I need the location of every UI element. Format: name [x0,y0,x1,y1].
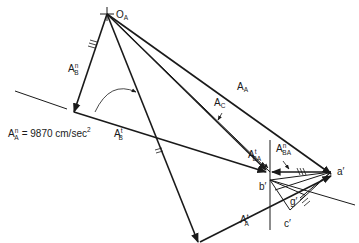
pointer-a-c [218,113,222,120]
label-origin: OA [116,9,129,21]
label-a-c: AC [214,97,226,109]
label-a-a-t: AtA [240,213,249,227]
acceleration-diagram: OA AA AC AnB AtB AtA AtBA AnBA a′ b′ c′ … [0,0,359,243]
label-a-b-t: AtB [114,127,123,141]
vector-a-b-n [74,14,107,112]
label-a-b-n: AnB [68,62,79,76]
polygon-fan [270,172,355,210]
label-b-prime: b′ [259,181,267,192]
label-g-prime: g′ [290,196,298,207]
label-a-a: AA [237,81,249,93]
curved-arrow [95,89,136,112]
hatch-marks [88,40,310,206]
label-a-ba-t: AtBA [248,148,262,162]
label-c-prime: c′ [284,218,291,229]
pointer-a-ba-n [283,161,289,169]
vector-a-a [107,14,331,174]
reference-line-left [15,91,67,109]
label-a-prime: a′ [337,166,345,177]
annotation-a-a-n: AnA= 9870 cm/sec2 [8,126,91,141]
